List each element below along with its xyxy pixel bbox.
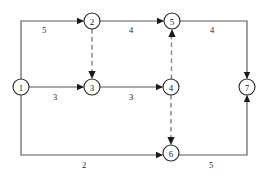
edge-label-6-to-7: 5 bbox=[209, 160, 213, 170]
network-graph-svg: 1 2 3 4 5 6 7 5 4 4 3 3 bbox=[0, 0, 272, 176]
edge-label-5-to-7: 4 bbox=[210, 25, 215, 35]
network-diagram: 1 2 3 4 5 6 7 5 4 4 3 3 bbox=[0, 0, 272, 176]
arrowhead-2-to-5 bbox=[157, 18, 164, 24]
arrowhead-6-to-7 bbox=[244, 95, 250, 102]
node-4[interactable]: 4 bbox=[163, 79, 179, 95]
edge-label-3-to-4: 3 bbox=[129, 92, 133, 102]
arrowhead-1-to-3 bbox=[77, 84, 84, 90]
node-6-label: 6 bbox=[169, 149, 174, 159]
edge-label-1-to-6: 2 bbox=[82, 160, 86, 170]
edge-1-to-2 bbox=[21, 21, 84, 79]
arrowhead-2-to-3 bbox=[88, 71, 95, 79]
node-7-label: 7 bbox=[245, 83, 250, 93]
node-3-label: 3 bbox=[90, 83, 95, 93]
node-7[interactable]: 7 bbox=[239, 79, 255, 95]
node-1[interactable]: 1 bbox=[13, 79, 29, 95]
node-1-label: 1 bbox=[19, 83, 24, 93]
arrowhead-5-to-7 bbox=[244, 72, 250, 79]
arrowhead-3-to-4 bbox=[156, 84, 163, 90]
arrowhead-1-to-6 bbox=[156, 152, 163, 158]
node-5-label: 5 bbox=[170, 17, 175, 27]
edge-1-to-6 bbox=[21, 95, 163, 155]
arrowhead-1-to-2 bbox=[77, 18, 84, 24]
node-2-label: 2 bbox=[90, 17, 95, 27]
node-6[interactable]: 6 bbox=[163, 145, 179, 161]
edge-6-to-7 bbox=[179, 96, 247, 156]
node-5[interactable]: 5 bbox=[164, 13, 180, 29]
node-4-label: 4 bbox=[169, 83, 174, 93]
edge-label-1-to-2: 5 bbox=[42, 25, 46, 35]
node-2[interactable]: 2 bbox=[84, 13, 100, 29]
node-3[interactable]: 3 bbox=[84, 79, 100, 95]
edge-label-1-to-3: 3 bbox=[53, 92, 57, 102]
edge-label-2-to-5: 4 bbox=[129, 25, 134, 35]
arrowhead-4-to-5 bbox=[168, 29, 175, 37]
arrowhead-4-to-6 bbox=[167, 137, 174, 145]
